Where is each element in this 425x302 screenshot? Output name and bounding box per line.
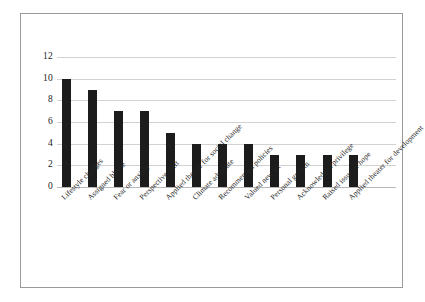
bar: [114, 111, 123, 187]
bar: [244, 144, 253, 187]
bar: [192, 144, 201, 187]
bar: [88, 90, 97, 188]
plot-area: 024681012 Lifestyle changesAssigned blam…: [21, 14, 402, 287]
bar: [323, 155, 332, 188]
bar: [62, 79, 71, 187]
chart-frame: 024681012 Lifestyle changesAssigned blam…: [20, 13, 403, 288]
bar-series: [21, 14, 402, 287]
bar: [166, 133, 175, 187]
bar: [270, 155, 279, 188]
bar: [218, 144, 227, 187]
bar: [349, 155, 358, 188]
bar: [296, 155, 305, 188]
bar: [140, 111, 149, 187]
